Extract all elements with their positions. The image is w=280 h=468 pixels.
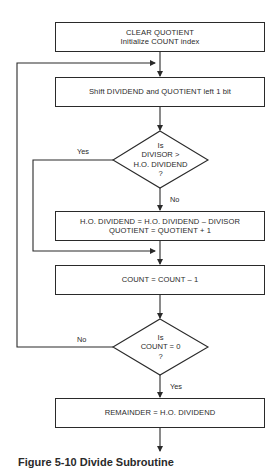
- decision1-line3: H.O. DIVIDEND: [133, 160, 187, 170]
- box-subtract: H.O. DIVIDEND = H.O. DIVIDEND – DIVISOR …: [55, 211, 265, 241]
- decision2-yes-label: Yes: [170, 382, 182, 391]
- decision1-line4: ?: [158, 169, 162, 179]
- figure-caption: Figure 5-10 Divide Subroutine: [18, 456, 174, 468]
- box4-line1: COUNT = COUNT – 1: [122, 275, 199, 285]
- decision1-text: Is DIVISOR > H.O. DIVIDEND ?: [113, 131, 208, 188]
- decision1-line1: Is: [158, 141, 164, 151]
- box2-line1: Shift DIVIDEND and QUOTIENT left 1 bit: [89, 87, 231, 97]
- box-decrement-count: COUNT = COUNT – 1: [55, 265, 265, 295]
- box5-line1: REMAINDER = H.O. DIVIDEND: [105, 408, 216, 418]
- box-clear-quotient: CLEAR QUOTIENT Initialize COUNT index: [55, 22, 265, 52]
- decision2-line2: COUNT = 0: [141, 342, 181, 352]
- box1-line1: CLEAR QUOTIENT: [126, 28, 194, 38]
- box1-line2: Initialize COUNT index: [121, 37, 200, 47]
- decision2-text: Is COUNT = 0 ?: [113, 319, 208, 375]
- decision2-line3: ?: [158, 352, 162, 362]
- decision1-line2: DIVISOR >: [142, 150, 180, 160]
- box-shift: Shift DIVIDEND and QUOTIENT left 1 bit: [55, 77, 265, 107]
- decision1-yes-label: Yes: [77, 147, 89, 156]
- decision2-no-label: No: [77, 335, 86, 344]
- box-remainder: REMAINDER = H.O. DIVIDEND: [55, 398, 265, 428]
- box3-line2: QUOTIENT = QUOTIENT + 1: [109, 226, 211, 236]
- decision1-no-label: No: [170, 195, 179, 204]
- decision2-line1: Is: [158, 333, 164, 343]
- box3-line1: H.O. DIVIDEND = H.O. DIVIDEND – DIVISOR: [80, 217, 240, 227]
